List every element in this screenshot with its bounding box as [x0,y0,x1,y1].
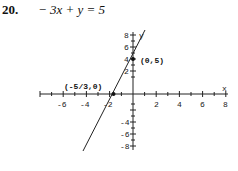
y-tick-label: -6 [120,130,130,139]
x-tick-label: -4 [80,100,90,109]
y-tick-label: -4 [120,118,130,127]
x-tick-label: 4 [177,100,182,109]
y-tick-label: 6 [124,43,129,52]
point-x-intercept [112,92,116,96]
x-axis-label: x [222,84,227,93]
graph: -6 -4 -2 2 4 6 8 8 6 4 2 -4 -6 -8 y x (0… [0,0,238,171]
x-tick-label: 6 [200,100,205,109]
y-tick-label: 8 [124,31,129,40]
x-tick-label: -6 [57,100,67,109]
x-intercept-label: (-5/3,0) [64,82,102,91]
y-intercept-label: (0,5) [140,56,164,65]
y-tick-label: -8 [120,142,130,151]
point-y-intercept [131,57,135,61]
x-tick-label: 8 [223,100,228,109]
x-tick-label: 2 [154,100,159,109]
y-tick-label: 2 [124,67,129,76]
